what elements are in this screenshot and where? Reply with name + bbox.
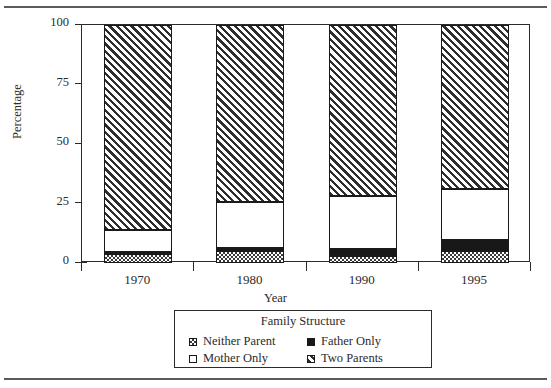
legend-items: Neither ParentFather OnlyMother OnlyTwo … [189,333,421,367]
y-axis-tick-label: 75 [57,75,70,90]
legend-item-label: Two Parents [321,352,383,365]
bar-segment-1990-two-parents[interactable] [329,25,397,196]
x-axis-tick-mark [81,262,82,271]
legend-swatch-icon [307,338,315,346]
bar-segment-1995-neither-parent[interactable] [441,251,509,263]
bar-segment-1970-mother-only[interactable] [104,230,172,252]
legend-swatch-icon [189,338,197,346]
bar-1990[interactable] [329,25,397,263]
bar-segment-1970-two-parents[interactable] [104,25,172,230]
x-axis-tick-label: 1970 [92,272,182,288]
bar-segment-1980-mother-only[interactable] [216,202,284,248]
bar-segment-1970-neither-parent[interactable] [104,254,172,263]
x-axis-tick-label: 1980 [204,272,294,288]
legend-item-label: Father Only [321,335,381,348]
y-axis-tick-label: 50 [57,134,70,149]
clipped-caption-above-rule [8,0,543,5]
bar-segment-1970-father-only[interactable] [104,252,172,254]
bar-segment-1995-two-parents[interactable] [441,25,509,189]
bar-segment-1980-father-only[interactable] [216,248,284,251]
legend-title: Family Structure [175,314,431,329]
x-axis-tick-label: 1995 [429,272,519,288]
x-axis-tick-mark [193,262,194,271]
legend-swatch-icon [189,355,197,363]
bar-segment-1980-two-parents[interactable] [216,25,284,202]
legend-swatch-icon [307,355,315,363]
y-axis-tick-label: 25 [57,194,70,209]
y-axis-tick-label: 100 [50,15,69,30]
bar-segment-1990-neither-parent[interactable] [329,256,397,263]
bar-segment-1990-father-only[interactable] [329,249,397,256]
legend-item-label: Neither Parent [203,335,276,348]
legend-item-two-parents[interactable]: Two Parents [307,352,421,365]
x-axis-tick-mark [306,262,307,271]
bar-1995[interactable] [441,25,509,263]
bar-1970[interactable] [104,25,172,263]
bottom-horizontal-rule [4,378,547,380]
bar-segment-1980-neither-parent[interactable] [216,251,284,263]
x-axis-tick-label: 1990 [317,272,407,288]
figure-container: Percentage 1007550250 1970198019901995 Y… [0,0,551,388]
legend-box: Family Structure Neither ParentFather On… [174,310,432,368]
bar-1980[interactable] [216,25,284,263]
x-axis-tick-mark [418,262,419,271]
plot-area [81,24,530,262]
x-axis-tick-mark [530,262,531,271]
y-axis-title: Percentage [10,52,25,172]
bar-segment-1990-mother-only[interactable] [329,196,397,248]
bar-segment-1995-mother-only[interactable] [441,189,509,240]
legend-item-father-only[interactable]: Father Only [307,335,421,348]
x-axis-title: Year [0,291,551,306]
legend-item-label: Mother Only [203,352,268,365]
y-axis-tick-label: 0 [63,253,69,268]
legend-item-neither-parent[interactable]: Neither Parent [189,335,307,348]
top-horizontal-rule [4,6,547,8]
legend-item-mother-only[interactable]: Mother Only [189,352,307,365]
bar-segment-1995-father-only[interactable] [441,240,509,251]
